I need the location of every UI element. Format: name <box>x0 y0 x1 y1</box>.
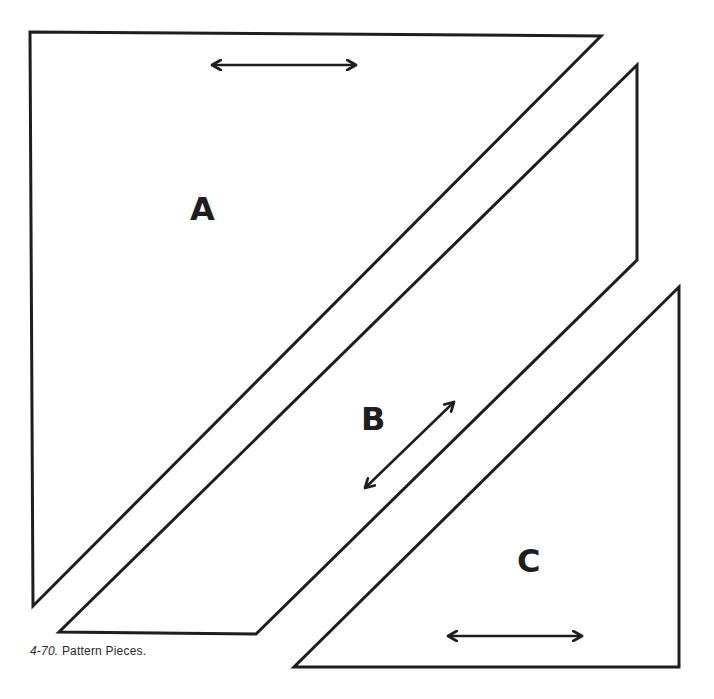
figure-caption-text: Pattern Pieces. <box>62 644 146 658</box>
piece-a-label: A <box>190 190 215 228</box>
piece-a: A <box>30 32 601 606</box>
piece-a-outline <box>30 32 601 606</box>
piece-b: B <box>59 65 637 634</box>
pattern-pieces-diagram: A B C <box>0 0 714 699</box>
figure-caption: 4-70. Pattern Pieces. <box>30 644 146 658</box>
piece-b-outline <box>59 65 637 634</box>
figure-number: 4-70. <box>30 644 58 658</box>
piece-b-label: B <box>361 400 385 438</box>
piece-c-label: C <box>517 542 540 580</box>
